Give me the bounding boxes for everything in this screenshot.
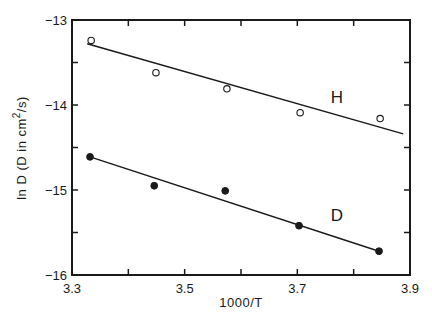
series-label-d: D	[331, 206, 343, 225]
x-tick-label: 3.9	[401, 281, 419, 296]
axis-ticks	[72, 20, 410, 275]
x-tick-label: 3.3	[63, 281, 81, 296]
open-circle-marker-h	[88, 37, 94, 43]
filled-circle-marker-d	[151, 182, 158, 189]
x-tick-labels: 3.33.53.73.9	[63, 281, 419, 296]
plot-frame	[72, 20, 410, 275]
series-label-h: H	[331, 88, 343, 107]
y-tick-label: −13	[45, 13, 67, 28]
fit-line-d	[90, 157, 379, 251]
open-circle-marker-h	[153, 70, 159, 76]
plot-border	[72, 20, 410, 275]
filled-circle-marker-d	[376, 248, 383, 255]
fit-line-h	[87, 44, 403, 134]
fit-lines	[87, 44, 403, 251]
y-tick-label: −15	[45, 183, 67, 198]
x-tick-label: 3.7	[288, 281, 306, 296]
y-axis-title-tail: /s)	[14, 96, 29, 112]
open-circle-marker-h	[297, 109, 303, 115]
y-tick-labels: −13−14−15−16	[45, 13, 67, 283]
open-circle-marker-h	[224, 86, 230, 92]
x-tick-label: 3.5	[176, 281, 194, 296]
filled-circle-marker-d	[222, 187, 229, 194]
y-tick-label: −14	[45, 98, 67, 113]
x-axis-title: 1000/T	[219, 295, 262, 310]
chart: 3.33.53.73.9 −13−14−15−16 HD 1000/T ln D…	[0, 0, 432, 326]
open-circle-marker-h	[377, 115, 383, 121]
series-labels: HD	[331, 88, 343, 225]
y-axis-title-main: ln D (D in cm	[14, 118, 29, 200]
y-tick-label: −16	[45, 268, 67, 283]
filled-circle-marker-d	[296, 222, 303, 229]
y-axis-title: ln D (D in cm2/s)	[11, 96, 29, 200]
filled-circle-marker-d	[87, 153, 94, 160]
